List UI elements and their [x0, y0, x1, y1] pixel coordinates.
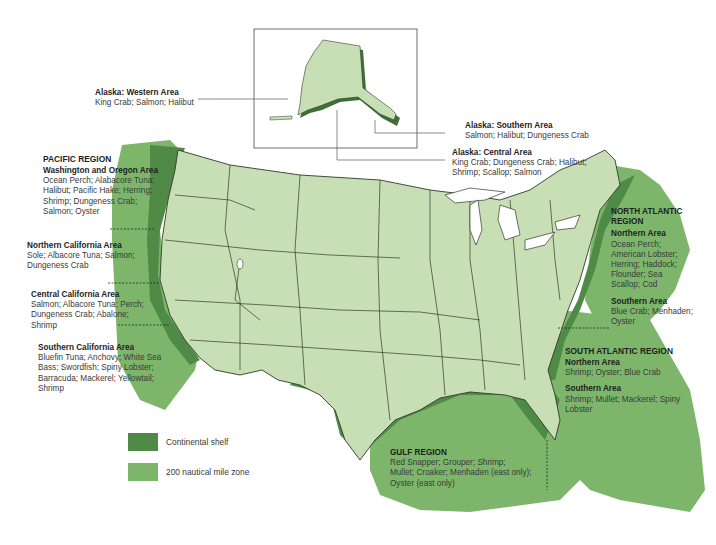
species-line: Barracuda; Mackerel; Yellowtail;	[38, 374, 161, 384]
area-title: Northern California Area	[27, 241, 135, 251]
species-line: Oyster (east only)	[390, 479, 532, 489]
label-northern-california: Northern California Area Sole; Albacore …	[27, 241, 135, 272]
area-title: Alaska: Southern Area	[465, 121, 589, 131]
label-south-atlantic-region: SOUTH ATLANTIC REGION Northern Area Shri…	[565, 346, 680, 415]
species-list: Shrimp; Scallop; Salmon	[452, 168, 587, 178]
species-line: Ocean Perch; Alabacore Tuna;	[43, 176, 158, 186]
species-line: Shrimp; Oyster; Blue Crab	[565, 368, 680, 378]
great-salt-lake	[237, 259, 243, 269]
region-title: GULF REGION	[390, 448, 532, 458]
label-central-california: Central California Area Salmon; Albacore…	[31, 290, 144, 331]
species-line: Oyster	[611, 317, 693, 327]
label-alaska-western: Alaska: Western Area King Crab; Salmon; …	[95, 88, 194, 108]
alaska-inset	[270, 40, 400, 126]
species-line: Halibut; Pacific Hake; Herring;	[43, 186, 158, 196]
species-line: Bluefin Tuna; Anchovy; White Sea	[38, 353, 161, 363]
label-gulf-region: GULF REGION Red Snapper; Grouper; Shrimp…	[390, 448, 532, 489]
area-title: Washington and Oregon Area	[43, 166, 158, 176]
legend-label: 200 nautical mile zone	[166, 467, 249, 477]
area-title: Alaska: Central Area	[452, 148, 587, 158]
area-title: Southern Area	[565, 384, 680, 394]
species-line: Shrimp; Mullet; Mackerel; Spiny	[565, 395, 680, 405]
species-list: King Crab; Dungeness Crab; Halibut;	[452, 158, 587, 168]
species-line: Dungeness Crab	[27, 261, 135, 271]
species-list: King Crab; Salmon; Halibut	[95, 98, 194, 108]
species-list: Salmon; Halibut; Dungeness Crab	[465, 131, 589, 141]
area-title: Northern Area	[611, 229, 693, 239]
species-line: Salmon; Albacore Tuna; Perch;	[31, 300, 144, 310]
species-line: Shrimp	[38, 384, 161, 394]
species-line: Flounder; Sea	[611, 270, 693, 280]
species-line: American Lobster;	[611, 250, 693, 260]
species-line: Herring; Haddock;	[611, 260, 693, 270]
species-line: Shrimp	[31, 321, 144, 331]
area-title: Southern California Area	[38, 343, 161, 353]
legend-label: Continental shelf	[166, 437, 228, 447]
label-alaska-central: Alaska: Central Area King Crab; Dungenes…	[452, 148, 587, 179]
region-title: PACIFIC REGION	[43, 154, 158, 164]
label-alaska-southern: Alaska: Southern Area Salmon; Halibut; D…	[465, 121, 589, 141]
species-line: Sole; Albacore Tuna; Salmon;	[27, 251, 135, 261]
species-line: Lobster	[565, 405, 680, 415]
map-legend: Continental shelf 200 nautical mile zone	[128, 430, 249, 490]
region-title: SOUTH ATLANTIC REGION	[565, 346, 680, 356]
legend-item-continental-shelf: Continental shelf	[128, 430, 249, 454]
species-line: Bass; Swordfish; Spiny Lobster;	[38, 363, 161, 373]
area-title: Central California Area	[31, 290, 144, 300]
species-line: Salmon; Oyster	[43, 207, 158, 217]
region-title: REGION	[611, 217, 693, 227]
label-southern-california: Southern California Area Bluefin Tuna; A…	[38, 343, 161, 394]
species-line: Mullet; Croaker; Menhaden (east only);	[390, 468, 532, 478]
legend-item-nautical-zone: 200 nautical mile zone	[128, 460, 249, 484]
area-title: Alaska: Western Area	[95, 88, 194, 98]
area-title: Southern Area	[611, 297, 693, 307]
species-line: Ocean Perch;	[611, 240, 693, 250]
nautical-zone-swatch	[128, 463, 158, 481]
species-line: Scallop; Cod	[611, 280, 693, 290]
region-title: NORTH ATLANTIC	[611, 207, 693, 217]
species-line: Blue Crab; Menhaden;	[611, 307, 693, 317]
species-line: Dungeness Crab; Abalone;	[31, 310, 144, 320]
species-line: Shrimp; Dungeness Crab;	[43, 197, 158, 207]
species-line: Red Snapper; Grouper; Shrimp;	[390, 458, 532, 468]
us-land	[160, 150, 620, 460]
label-north-atlantic-region: NORTH ATLANTIC REGION Northern Area Ocea…	[611, 207, 693, 327]
label-pacific-region: PACIFIC REGION Washington and Oregon Are…	[43, 154, 158, 217]
fisheries-map	[0, 0, 716, 545]
continental-shelf-swatch	[128, 433, 158, 451]
area-title: Northern Area	[565, 358, 680, 368]
